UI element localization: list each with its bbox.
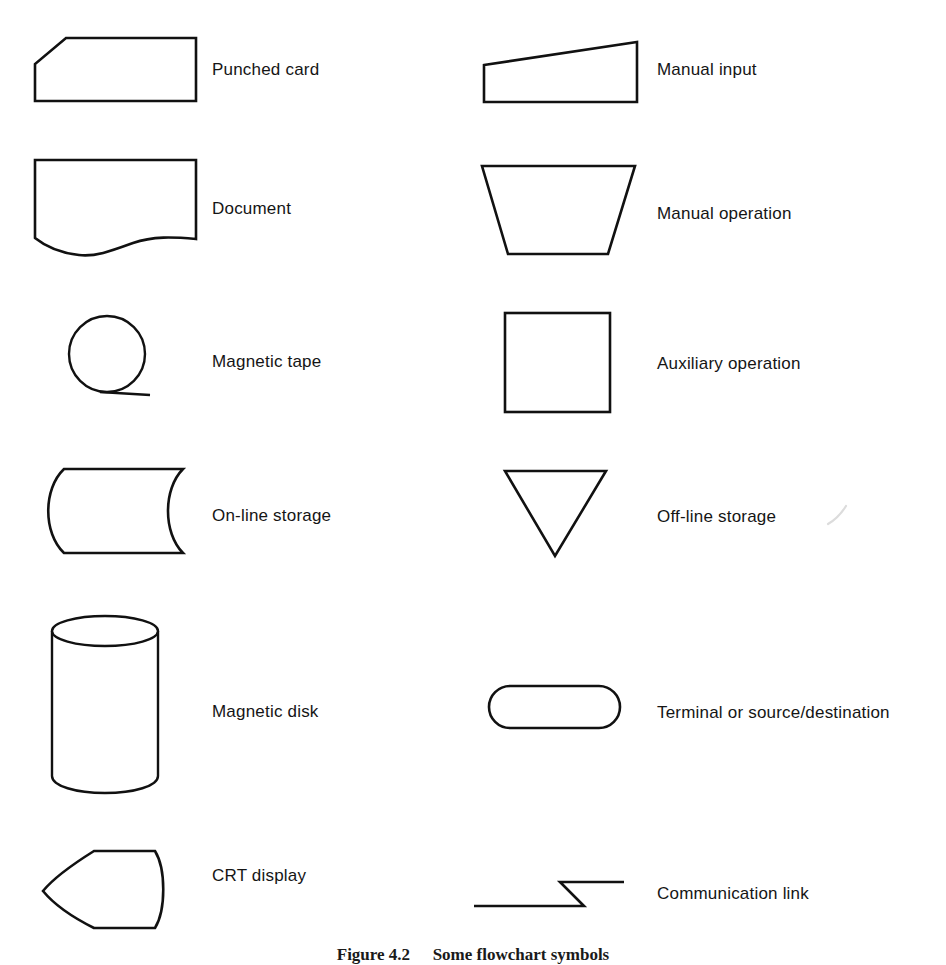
symbol-label-communication-link: Communication link — [657, 884, 809, 904]
symbol-label-manual-input: Manual input — [657, 60, 757, 80]
symbol-label-manual-operation: Manual operation — [657, 204, 792, 224]
symbol-label-magnetic-disk: Magnetic disk — [212, 702, 319, 722]
symbol-label-document: Document — [212, 199, 291, 219]
figure-caption-text: Some flowchart symbols — [433, 945, 610, 964]
symbol-label-punched-card: Punched card — [212, 60, 319, 80]
symbol-label-on-line-storage: On-line storage — [212, 506, 331, 526]
terminal-icon — [487, 684, 627, 732]
figure-caption-number: Figure 4.2 — [337, 945, 410, 964]
document-icon — [33, 158, 203, 258]
auxiliary-operation-icon — [503, 311, 615, 417]
symbol-label-auxiliary-operation: Auxiliary operation — [657, 354, 801, 374]
on-line-storage-icon — [30, 466, 190, 558]
off-line-storage-icon — [503, 468, 613, 560]
symbol-label-terminal: Terminal or source/destination — [657, 703, 890, 723]
scan-speck-artifact — [822, 500, 852, 534]
manual-input-icon — [482, 40, 642, 108]
magnetic-tape-icon — [66, 314, 158, 404]
crt-display-icon — [40, 848, 170, 930]
communication-link-icon — [472, 878, 632, 912]
punched-card-icon — [33, 37, 199, 105]
manual-operation-icon — [480, 164, 640, 260]
symbol-label-crt-display: CRT display — [212, 866, 306, 886]
symbol-label-off-line-storage: Off-line storage — [657, 507, 776, 527]
symbol-label-magnetic-tape: Magnetic tape — [212, 352, 321, 372]
magnetic-disk-icon — [50, 614, 166, 796]
figure-caption: Figure 4.2 Some flowchart symbols — [0, 945, 946, 965]
